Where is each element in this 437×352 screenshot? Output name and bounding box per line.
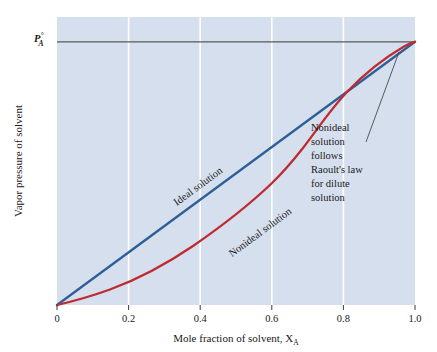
plot-area-background	[57, 17, 415, 305]
annotation-line-6: solution	[311, 192, 346, 203]
x-axis-title-subscript: A	[293, 338, 299, 347]
x-axis-title: Mole fraction of solvent, XA	[173, 332, 299, 347]
x-tick-label-5: 1.0	[408, 313, 421, 324]
x-tick-label-2: 0.4	[194, 313, 208, 324]
annotation-line-2: solution	[311, 136, 346, 147]
y-axis-title: Vapor pressure of solvent	[12, 105, 24, 217]
x-axis-title-text: Mole fraction of solvent, X	[173, 332, 293, 344]
annotation-line-5: for dilute	[311, 178, 350, 189]
x-tick-label-4: 0.8	[337, 313, 350, 324]
x-tick-label-0: 0	[54, 313, 59, 324]
annotation-line-3: follows	[311, 150, 343, 161]
reference-label-subscript: A	[37, 39, 43, 48]
annotation-line-1: Nonideal	[311, 122, 350, 133]
chart-canvas: 0 0.2 0.4 0.6 0.8 1.0 Mole fraction of s…	[0, 0, 437, 352]
x-axis-ticks	[57, 305, 415, 310]
x-tick-label-1: 0.2	[122, 313, 135, 324]
vapor-pressure-figure: 0 0.2 0.4 0.6 0.8 1.0 Mole fraction of s…	[0, 0, 437, 352]
x-tick-label-3: 0.6	[265, 313, 278, 324]
annotation-line-4: Raoult's law	[311, 164, 363, 175]
reference-line-label: P°A	[34, 31, 43, 48]
